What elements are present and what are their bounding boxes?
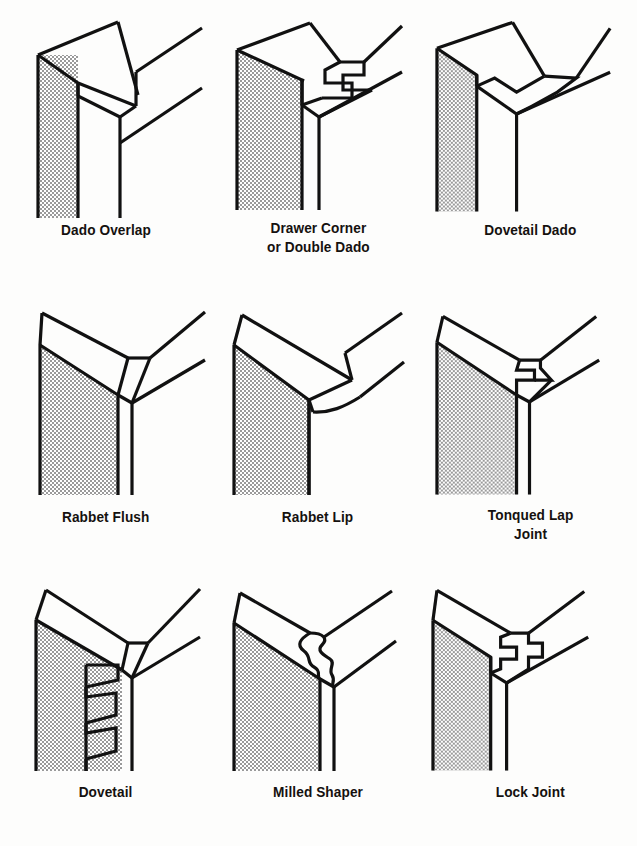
figure-label-lock-joint: Lock Joint [496, 782, 565, 801]
figure-label-drawer-corner: Drawer Corner or Double Dado [267, 218, 370, 256]
figure-cell-dado-overlap: Dado Overlap [0, 0, 212, 290]
figure-cell-tongued-lap-joint: Tonqued Lap Joint [424, 290, 637, 575]
figure-cell-milled-shaper: Milled Shaper [212, 575, 424, 846]
figure-label-dovetail-dado: Dovetail Dado [484, 220, 576, 239]
figure-cell-dovetail: Dovetail [0, 575, 212, 846]
figure-cell-dovetail-dado: Dovetail Dado [424, 0, 637, 290]
joint-diagram-rabbet-flush [0, 290, 212, 505]
joint-diagram-rabbet-lip [212, 290, 424, 505]
joint-diagram-dovetail-dado [425, 0, 637, 218]
joint-diagram-dado-overlap [0, 0, 212, 218]
joint-diagram-dovetail [0, 575, 212, 780]
joint-chart-sheet: Dado Overlap [0, 0, 637, 846]
figure-label-tongued-lap-joint: Tonqued Lap Joint [488, 505, 574, 543]
figure-label-rabbet-flush: Rabbet Flush [62, 507, 149, 526]
joint-diagram-tongued-lap-joint [425, 290, 637, 505]
figure-label-milled-shaper: Milled Shaper [273, 782, 363, 801]
figure-cell-drawer-corner: Drawer Corner or Double Dado [212, 0, 424, 290]
figure-label-dovetail: Dovetail [79, 782, 133, 801]
figure-cell-lock-joint: Lock Joint [424, 575, 637, 846]
joint-grid: Dado Overlap [0, 0, 637, 846]
joint-diagram-lock-joint [425, 575, 637, 780]
joint-diagram-milled-shaper [212, 575, 424, 780]
figure-cell-rabbet-flush: Rabbet Flush [0, 290, 212, 575]
joint-diagram-drawer-corner [212, 0, 424, 218]
figure-label-rabbet-lip: Rabbet Lip [282, 507, 353, 526]
figure-label-dado-overlap: Dado Overlap [61, 220, 151, 239]
figure-cell-rabbet-lip: Rabbet Lip [212, 290, 424, 575]
